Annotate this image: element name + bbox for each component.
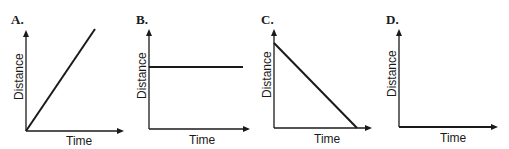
graph-a: A. Distance Time	[0, 0, 130, 149]
x-axis-label: Time	[314, 132, 340, 146]
graph-d: D. Distance Time	[380, 0, 509, 149]
graph-b: B. Distance Time	[125, 0, 260, 149]
y-axis-label: Distance	[260, 51, 274, 98]
y-axis-label: Distance	[12, 53, 26, 100]
x-axis-label: Time	[189, 133, 215, 147]
y-axis-label: Distance	[135, 52, 149, 99]
x-axis-label: Time	[440, 131, 466, 145]
x-axis-label: Time	[66, 134, 92, 148]
y-axis-label: Distance	[385, 50, 399, 97]
graph-c: C. Distance Time	[255, 0, 390, 149]
graph-d-plot	[380, 0, 509, 149]
graph-c-plot	[255, 0, 390, 149]
